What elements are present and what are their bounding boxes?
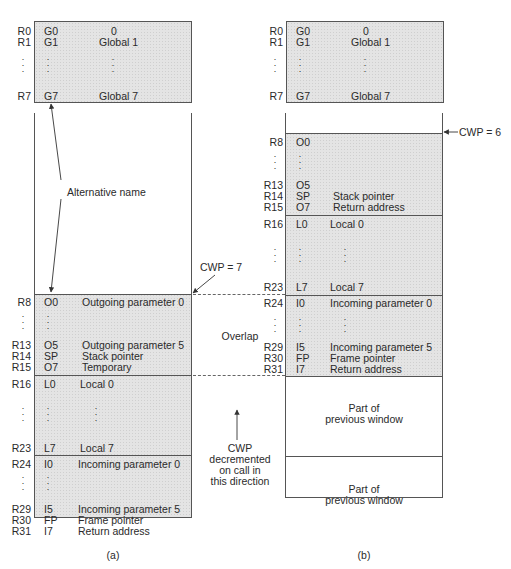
cwp7-arrow [193,275,215,293]
alternative-name-arrows [51,104,61,292]
arrows-overlay [0,0,511,569]
